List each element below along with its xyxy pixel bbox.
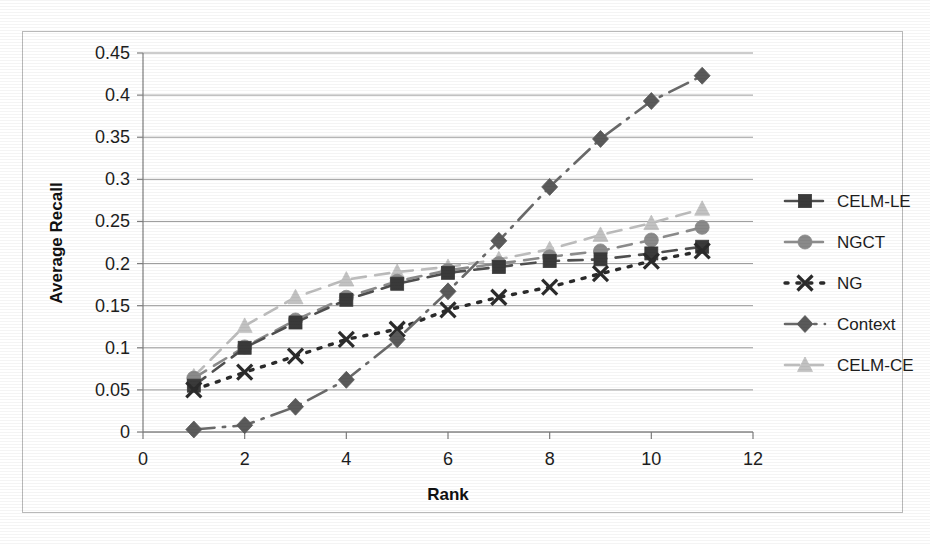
chart-figure: 00.050.10.150.20.250.30.350.40.45 024681… bbox=[0, 0, 930, 544]
series-line bbox=[194, 227, 702, 378]
data-point-circle bbox=[695, 220, 709, 234]
series-line bbox=[194, 76, 702, 430]
data-point-diamond bbox=[797, 316, 813, 333]
data-point-diamond bbox=[186, 421, 202, 438]
legend-item-ng[interactable]: NG bbox=[785, 274, 863, 293]
data-point-square bbox=[391, 277, 404, 290]
data-point-square bbox=[340, 293, 353, 306]
data-point-square bbox=[594, 253, 607, 266]
y-tick-labels: 00.050.10.150.20.250.30.350.40.45 bbox=[95, 43, 130, 442]
data-point-triangle bbox=[288, 289, 303, 304]
data-point-square bbox=[289, 316, 302, 329]
y-axis-title: Average Recall bbox=[47, 182, 66, 303]
x-tick-labels: 024681012 bbox=[138, 449, 763, 469]
data-point-triangle bbox=[593, 227, 608, 242]
legend-label: NG bbox=[837, 274, 863, 293]
y-tick-label: 0.35 bbox=[95, 127, 130, 147]
y-tick-label: 0 bbox=[120, 422, 130, 442]
chart-canvas: 00.050.10.150.20.250.30.350.40.45 024681… bbox=[0, 0, 930, 544]
legend-item-ngct[interactable]: NGCT bbox=[785, 233, 885, 252]
series-context bbox=[186, 67, 710, 438]
axes-group bbox=[137, 53, 753, 439]
x-tick-label: 8 bbox=[545, 449, 555, 469]
legend-label: Context bbox=[837, 315, 896, 334]
data-point-square bbox=[442, 266, 455, 279]
x-tick-label: 2 bbox=[240, 449, 250, 469]
data-point-square bbox=[543, 255, 556, 268]
line-chart-svg: 00.050.10.150.20.250.30.350.40.45 024681… bbox=[0, 0, 930, 544]
x-tick-label: 4 bbox=[341, 449, 351, 469]
y-tick-label: 0.2 bbox=[105, 254, 130, 274]
legend-item-celm-ce[interactable]: CELM-CE bbox=[785, 356, 914, 375]
legend-label: CELM-CE bbox=[837, 356, 914, 375]
data-point-square bbox=[492, 260, 505, 273]
y-tick-label: 0.1 bbox=[105, 338, 130, 358]
legend-label: NGCT bbox=[837, 233, 885, 252]
data-point-circle bbox=[798, 235, 812, 249]
x-tick-label: 12 bbox=[743, 449, 763, 469]
data-point-triangle bbox=[695, 201, 710, 216]
gridlines-group bbox=[143, 53, 753, 432]
data-point-triangle bbox=[237, 318, 252, 333]
y-tick-label: 0.15 bbox=[95, 296, 130, 316]
series-ngct bbox=[187, 220, 709, 385]
legend-item-context[interactable]: Context bbox=[785, 315, 896, 334]
x-tick-label: 6 bbox=[443, 449, 453, 469]
legend-label: CELM-LE bbox=[837, 192, 911, 211]
data-series-group bbox=[186, 67, 710, 438]
data-point-diamond bbox=[288, 398, 304, 415]
y-tick-label: 0.4 bbox=[105, 85, 130, 105]
x-axis-title: Rank bbox=[427, 485, 469, 504]
legend-item-celm-le[interactable]: CELM-LE bbox=[785, 192, 911, 211]
y-tick-label: 0.05 bbox=[95, 380, 130, 400]
legend-group: CELM-LENGCTNGContextCELM-CE bbox=[785, 192, 914, 375]
y-tick-label: 0.3 bbox=[105, 169, 130, 189]
data-point-square bbox=[238, 341, 251, 354]
x-tick-label: 0 bbox=[138, 449, 148, 469]
y-tick-label: 0.45 bbox=[95, 43, 130, 63]
y-tick-label: 0.25 bbox=[95, 211, 130, 231]
data-point-diamond bbox=[593, 130, 609, 147]
data-point-circle bbox=[644, 233, 658, 247]
data-point-square bbox=[799, 195, 812, 208]
data-point-diamond bbox=[237, 417, 253, 434]
x-tick-label: 10 bbox=[641, 449, 661, 469]
data-point-diamond bbox=[694, 67, 710, 84]
